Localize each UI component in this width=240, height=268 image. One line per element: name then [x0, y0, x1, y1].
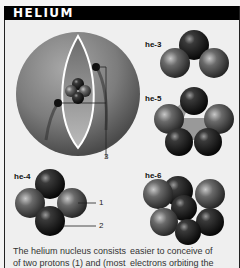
body-text-col2: easier to conceive of electrons orbiting… [130, 245, 214, 268]
callout-2: 2 [99, 221, 103, 230]
callout-1: 1 [99, 198, 103, 207]
isotope-label-he5: he-5 [145, 94, 161, 103]
isotope-label-he3: he-3 [145, 40, 161, 49]
body-line: The helium nucleus consists [13, 245, 126, 257]
helium-atom-illustration [0, 0, 240, 268]
isotope-label-he4: he-4 [14, 172, 30, 181]
callout-3: 3 [104, 152, 108, 161]
body-line: of two protons (1) and (most [13, 257, 126, 268]
body-text-col1: The helium nucleus consists of two proto… [13, 245, 126, 268]
isotope-label-he6: he-6 [145, 171, 161, 180]
body-line: easier to conceive of [130, 245, 214, 257]
body-line: electrons orbiting the [130, 257, 214, 268]
